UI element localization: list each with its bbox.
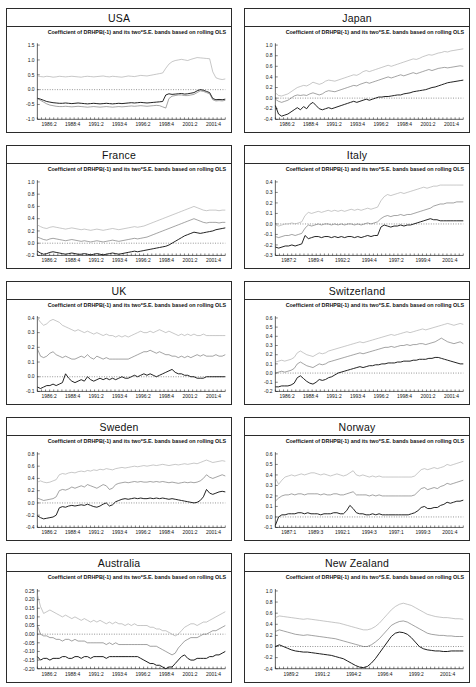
x-axis-tick-label: 1986:2 [280,122,295,127]
panel-title: Japan [245,9,469,27]
x-axis-tick-label: 1997:2 [389,258,404,263]
x-axis-tick-label: 1996:4 [377,672,392,677]
y-axis-tick-label: 1.5 [28,43,35,48]
x-axis-tick-label: 1989:3 [308,530,323,535]
x-axis-tick-label: 2001:4 [442,258,457,263]
y-axis-tick-label: 0.1 [28,360,35,365]
x-axis-tick-label: 1994:4 [362,258,377,263]
series-line [37,349,225,359]
y-axis-tick-label: 0.6 [28,464,35,469]
y-axis-tick-label: -0.1 [264,380,273,385]
x-axis-tick-label: 2001:4 [206,122,221,127]
y-axis-tick-label: 0.4 [266,180,273,185]
y-axis-tick-label: 0.6 [266,64,273,69]
x-axis-tick-label: 2001:2 [183,258,198,263]
x-axis-tick-label: 1992:2 [335,258,350,263]
country-panel-uk: UKCoefficient of DRHPB(-1) and its two*S… [6,281,232,405]
y-axis-tick-label: 0.3 [266,483,273,488]
chart-svg: 0.250.200.150.100.050.00-0.05-0.10-0.15-… [7,572,231,682]
country-panel-new-zealand: New ZealandCoefficient of DRHPB(-1) and … [244,553,470,683]
x-axis-tick-label: 1988:4 [65,672,80,677]
x-axis-tick-label: 1998:4 [397,394,412,399]
plot-area: Coefficient of DRHPB(-1) and its two*S.E… [245,436,469,540]
y-axis-tick-label: 0.0 [28,501,35,506]
y-axis-tick-label: -0.4 [264,117,273,122]
panel-title: Switzerland [245,282,469,300]
y-axis-tick-label: 1.0 [28,180,35,185]
y-axis-tick-label: 0.0 [28,87,35,92]
y-axis-tick-label: 0.2 [266,85,273,90]
x-axis-tick-label: 1993:4 [112,672,127,677]
y-axis-tick-label: 0.25 [25,589,35,594]
x-axis-tick-label: 2001:4 [206,530,221,535]
y-axis-tick-label: 0.0 [266,515,273,520]
y-axis-tick-label: 0.0 [266,371,273,376]
x-axis-tick-label: 2001:2 [421,394,436,399]
series-line [275,632,463,668]
y-axis-tick-label: 0.4 [266,75,273,80]
x-axis-tick-label: 1993:4 [112,258,127,263]
y-axis-tick-label: 0.1 [266,504,273,509]
y-axis-tick-label: 0.8 [266,600,273,605]
y-axis-tick-label: 0.1 [266,362,273,367]
chart-svg: 1.00.80.60.40.20.0-0.21986:21988:41991:2… [7,164,231,268]
y-axis-tick-label: 0.6 [266,611,273,616]
panel-grid: USACoefficient of DRHPB(-1) and its two*… [0,0,476,687]
y-axis-tick-label: 0.8 [28,452,35,457]
series-line [37,651,225,668]
series-line [37,489,225,518]
y-axis-tick-label: 1.0 [266,43,273,48]
x-axis-tick-label: 1998:4 [159,530,174,535]
y-axis-tick-label: 0.4 [28,217,35,222]
panel-cell: USACoefficient of DRHPB(-1) and its two*… [0,0,238,137]
chart-svg: 0.40.30.20.10.0-0.1-0.2-0.31987:21989:41… [245,164,469,268]
x-axis-tick-label: 1999:3 [415,530,430,535]
chart-svg: 1.00.80.60.40.20.0-0.2-0.41989:21991:219… [245,572,469,682]
plot-area: Coefficient of DRHPB(-1) and its two*S.E… [245,164,469,268]
y-axis-tick-label: -0.4 [26,525,35,530]
panel-title: UK [7,282,231,300]
x-axis-tick-label: 2001:2 [421,122,436,127]
country-panel-australia: AustraliaCoefficient of DRHPB(-1) and it… [6,553,232,683]
x-axis-tick-label: 2001:4 [206,672,221,677]
plot-area: Coefficient of DRHPB(-1) and its two*S.E… [7,572,231,682]
x-axis-tick-label: 1998:4 [159,122,174,127]
x-axis-tick-label: 1998:4 [159,258,174,263]
x-axis-tick-label: 1988:4 [65,122,80,127]
x-axis-tick-label: 1991:2 [315,672,330,677]
panel-title: France [7,146,231,164]
x-axis-tick-label: 2001:4 [206,258,221,263]
y-axis-tick-label: 0.3 [266,190,273,195]
y-axis-tick-label: -0.10 [23,649,34,654]
panel-title: Italy [245,146,469,164]
series-line [275,323,463,362]
chart-svg: 1.00.80.60.40.20.0-0.2-0.41986:21988:419… [245,27,469,132]
y-axis-tick-label: 0.1 [266,211,273,216]
x-axis-tick-label: 1988:4 [65,394,80,399]
y-axis-tick-label: 0.0 [266,644,273,649]
y-axis-tick-label: 0.10 [25,615,35,620]
x-axis-tick-label: 2001:2 [183,672,198,677]
x-axis-tick-label: 1987:2 [281,258,296,263]
x-axis-tick-label: 1998:4 [159,672,174,677]
series-line [275,357,463,386]
y-axis-tick-label: 0.6 [28,204,35,209]
y-axis-tick-label: 0.4 [28,316,35,321]
y-axis-tick-label: 0.5 [266,325,273,330]
x-axis-tick-label: 2001:4 [440,672,455,677]
x-axis-tick-label: 1996:2 [136,122,151,127]
y-axis-tick-label: -0.05 [23,641,34,646]
y-axis-tick-label: -0.1 [264,525,273,530]
x-axis-tick-label: 2001:2 [183,394,198,399]
panel-title: Norway [245,418,469,436]
x-axis-tick-label: 1988:4 [303,122,318,127]
x-axis-tick-label: 1996:2 [136,672,151,677]
x-axis-tick-label: 2001:2 [183,122,198,127]
plot-area: Coefficient of DRHPB(-1) and its two*S.E… [245,572,469,682]
x-axis-tick-label: 2001:4 [206,394,221,399]
x-axis-tick-label: 1994:3 [362,530,377,535]
figure-sheet: USACoefficient of DRHPB(-1) and its two*… [0,0,476,687]
x-axis-tick-label: 1991:2 [89,258,104,263]
x-axis-tick-label: 1986:2 [42,672,57,677]
chart-svg: 0.80.60.40.20.0-0.2-0.41986:21988:41991:… [7,436,231,540]
